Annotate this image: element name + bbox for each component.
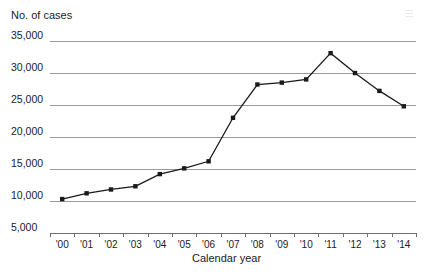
gridline: [50, 105, 416, 106]
data-point-marker: [84, 191, 88, 195]
y-axis-tick-label: 15,000: [11, 158, 55, 169]
x-axis-tick: [270, 233, 271, 237]
x-axis-tick-label: '13: [373, 239, 386, 251]
x-axis-tick: [343, 233, 344, 237]
data-point-marker: [377, 89, 381, 93]
x-axis-tick: [99, 233, 100, 237]
y-axis-title: No. of cases: [11, 9, 72, 22]
x-axis-tick: [294, 233, 295, 237]
watermark-mark: [406, 10, 413, 19]
y-axis-tick-label: 5,000: [11, 222, 55, 233]
y-axis-tick-label: 30,000: [11, 62, 55, 73]
data-point-marker: [133, 184, 137, 188]
x-axis-tick: [148, 233, 149, 237]
y-axis-tick-label: 20,000: [11, 126, 55, 137]
x-axis-title: Calendar year: [0, 252, 439, 265]
x-axis-tick-label: '06: [202, 239, 215, 251]
gridline: [50, 73, 416, 74]
x-axis-tick: [123, 233, 124, 237]
x-axis-tick-label: '08: [251, 239, 264, 251]
x-axis-tick-label: '03: [129, 239, 142, 251]
y-axis-tick-label: 35,000: [11, 30, 55, 41]
x-axis-tick: [392, 233, 393, 237]
data-point-marker: [109, 187, 113, 191]
y-axis-tick-label: 25,000: [11, 94, 55, 105]
x-axis-tick: [245, 233, 246, 237]
x-axis-tick: [74, 233, 75, 237]
x-axis-title-text: Calendar year: [192, 252, 261, 265]
x-axis-tick-label: '04: [153, 239, 166, 251]
x-axis-tick-label: '01: [80, 239, 93, 251]
data-point-marker: [280, 80, 284, 84]
x-axis-tick-label: '14: [397, 239, 410, 251]
x-axis-tick: [416, 233, 417, 237]
x-axis-tick: [221, 233, 222, 237]
x-axis-tick-label: '12: [348, 239, 361, 251]
x-axis-tick-label: '07: [226, 239, 239, 251]
data-point-marker: [231, 116, 235, 120]
gridline: [50, 169, 416, 170]
x-axis-tick-label: '10: [300, 239, 313, 251]
gridline: [50, 201, 416, 202]
line-chart: No. of cases 35,00030,00025,00020,00015,…: [0, 0, 439, 273]
x-axis-tick-label: '05: [178, 239, 191, 251]
x-axis-tick: [367, 233, 368, 237]
x-axis-tick-label: '11: [324, 239, 336, 251]
gridline: [50, 41, 416, 42]
data-point-marker: [328, 51, 332, 55]
x-axis-tick-label: '09: [275, 239, 288, 251]
data-point-marker: [206, 159, 210, 163]
x-axis-tick: [50, 233, 51, 237]
data-point-marker: [255, 82, 259, 86]
x-axis-tick-label: '02: [104, 239, 117, 251]
x-axis-tick-label: '00: [56, 239, 69, 251]
y-axis-tick-label: 10,000: [11, 190, 55, 201]
x-axis-line: [50, 233, 416, 234]
series-line: [62, 53, 404, 199]
x-axis-tick: [318, 233, 319, 237]
gridline: [50, 137, 416, 138]
data-point-marker: [304, 77, 308, 81]
x-axis-tick: [172, 233, 173, 237]
x-axis-tick: [196, 233, 197, 237]
data-point-marker: [158, 172, 162, 176]
